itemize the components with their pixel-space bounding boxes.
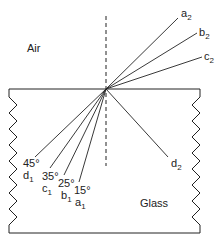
refracted-rays [106, 18, 202, 89]
ray-b2 [106, 33, 197, 89]
ray-d2 [106, 89, 168, 157]
angle-d1: 45° [23, 157, 40, 169]
label-a1: a1 [75, 196, 86, 211]
label-b1: b1 [61, 189, 72, 204]
right-zigzag-edge [192, 89, 200, 233]
label-b2: b2 [199, 26, 210, 41]
left-zigzag-edge [9, 89, 17, 233]
label-d2: d2 [171, 157, 182, 172]
refraction-diagram: Air Glass a2 b2 c2 d2 45° d1 35° c1 25° … [0, 0, 222, 241]
label-c1: c1 [42, 182, 53, 197]
angle-c1: 35° [42, 170, 59, 182]
angle-a1: 15° [74, 184, 91, 196]
ray-a2 [106, 18, 178, 89]
ray-d1 [35, 89, 106, 157]
ray-c2 [106, 57, 202, 89]
incident-rays [35, 89, 106, 182]
glass-label: Glass [140, 197, 169, 209]
label-a2: a2 [181, 7, 192, 22]
ray-c1 [50, 89, 106, 168]
air-label: Air [27, 42, 41, 54]
angle-b1: 25° [58, 177, 75, 189]
label-c2: c2 [204, 50, 215, 65]
label-d1: d1 [23, 169, 34, 184]
